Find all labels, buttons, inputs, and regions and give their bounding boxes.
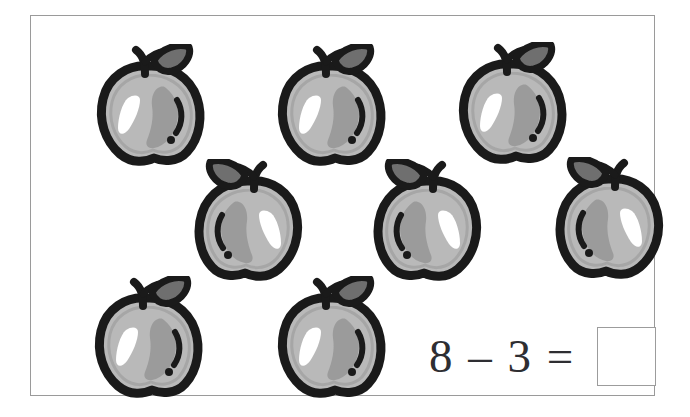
answer-input-box[interactable]: [597, 327, 656, 386]
apple-icon: [269, 276, 391, 401]
worksheet-page: 8 – 3 =: [0, 0, 690, 417]
apple-icon: [368, 159, 490, 284]
apple-icon: [189, 159, 311, 284]
apple-icon: [550, 157, 672, 282]
apple-icon: [450, 42, 572, 167]
worksheet-frame: 8 – 3 =: [30, 15, 655, 396]
equation-row: 8 – 3 =: [429, 319, 679, 393]
apple-icon: [269, 44, 391, 169]
equation-expression: 8 – 3 =: [429, 333, 597, 380]
apple-icon: [88, 44, 210, 169]
apple-icon: [86, 276, 208, 401]
